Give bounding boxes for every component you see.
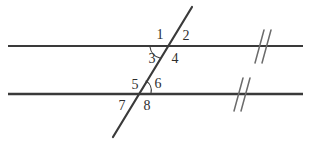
angle-7-label: 7 [119, 99, 126, 113]
angle-8-label: 8 [144, 99, 151, 113]
transversal-line [113, 7, 192, 137]
angle-2-label: 2 [183, 29, 190, 43]
geometry-canvas [0, 0, 311, 144]
angle-6-label: 6 [155, 77, 162, 91]
angle-1-label: 1 [157, 28, 164, 42]
angle-3-label: 3 [149, 52, 156, 66]
geometry-figure: 12345678 [0, 0, 311, 144]
angle-4-label: 4 [172, 52, 179, 66]
angle-5-label: 5 [132, 78, 139, 92]
